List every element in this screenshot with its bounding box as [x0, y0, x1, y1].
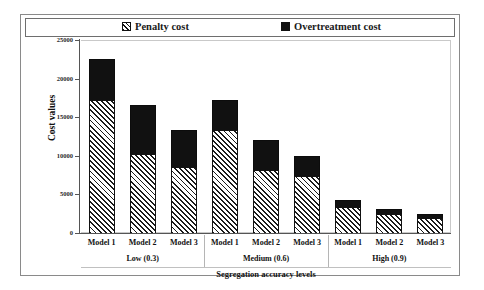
- bar-segment-penalty-cost: [376, 214, 402, 233]
- stacked-bar: [171, 130, 197, 233]
- bar-segment-penalty-cost: [253, 170, 279, 233]
- x-axis-group-separator: [204, 235, 205, 267]
- y-axis-line: [79, 39, 80, 233]
- bar-segment-overtreatment-cost: [212, 100, 238, 130]
- stacked-bar: [253, 140, 279, 233]
- bar-segment-overtreatment-cost: [253, 140, 279, 170]
- x-axis-tick-label: Model 3: [162, 238, 206, 247]
- stacked-bar: [89, 59, 115, 233]
- stacked-bar: [335, 200, 361, 233]
- y-axis-tick-label: 25000: [37, 37, 73, 44]
- x-axis-group-separator: [328, 235, 329, 267]
- x-axis-line: [79, 233, 451, 234]
- y-axis-tick-label: 20000: [37, 76, 73, 83]
- legend-label-penalty-cost: Penalty cost: [135, 21, 189, 32]
- bar-segment-penalty-cost: [212, 130, 238, 233]
- x-axis-tick-label: Model 1: [326, 238, 370, 247]
- plot-wrapper: Cost values 0500010000150002000025000 Se…: [25, 39, 455, 271]
- x-axis-rule: [81, 267, 451, 268]
- x-axis-tick-label: Model 1: [80, 238, 124, 247]
- x-axis-group-label: Medium (0.6): [204, 254, 327, 263]
- y-axis-tick-label: 10000: [37, 153, 73, 160]
- bar-segment-overtreatment-cost: [294, 156, 320, 176]
- bar-segment-overtreatment-cost: [89, 59, 115, 100]
- stacked-bar: [376, 209, 402, 233]
- y-axis-tick-label: 5000: [37, 191, 73, 198]
- bar-segment-penalty-cost: [335, 207, 361, 233]
- stacked-bar: [417, 214, 443, 233]
- hatch-swatch-icon: [122, 22, 131, 31]
- bar-segment-penalty-cost: [294, 176, 320, 233]
- bar-segment-penalty-cost: [417, 218, 443, 233]
- bar-segment-overtreatment-cost: [335, 200, 361, 207]
- x-axis-title: Segregation accuracy levels: [81, 269, 451, 279]
- legend-label-overtreatment-cost: Overtreatment cost: [294, 21, 381, 32]
- chart-legend: Penalty cost Overtreatment cost: [25, 18, 455, 37]
- x-axis-tick-label: Model 3: [408, 238, 452, 247]
- bar-segment-penalty-cost: [89, 100, 115, 233]
- bar-series-container: [81, 40, 451, 233]
- x-axis-tick-label: Model 1: [203, 238, 247, 247]
- y-axis-tick-label: 15000: [37, 114, 73, 121]
- x-axis-tick-label: Model 2: [121, 238, 165, 247]
- legend-item-overtreatment-cost: Overtreatment cost: [281, 21, 381, 32]
- bar-segment-overtreatment-cost: [130, 105, 156, 154]
- x-axis-tick-label: Model 2: [367, 238, 411, 247]
- chart-figure: Penalty cost Overtreatment cost Cost val…: [20, 14, 460, 276]
- stacked-bar: [212, 100, 238, 233]
- bar-segment-overtreatment-cost: [171, 130, 197, 166]
- stacked-bar: [294, 156, 320, 233]
- stacked-bar: [130, 105, 156, 233]
- solid-swatch-icon: [281, 22, 290, 31]
- y-axis-tick-label: 0: [37, 230, 73, 237]
- bar-segment-penalty-cost: [130, 154, 156, 233]
- x-axis-tick-label: Model 3: [285, 238, 329, 247]
- x-axis-tick-label: Model 2: [244, 238, 288, 247]
- x-axis-group-label: High (0.9): [328, 254, 451, 263]
- x-axis-group-label: Low (0.3): [81, 254, 204, 263]
- bar-segment-penalty-cost: [171, 167, 197, 233]
- x-axis-labels: Segregation accuracy levels Model 1Model…: [81, 235, 451, 290]
- legend-item-penalty-cost: Penalty cost: [122, 21, 189, 32]
